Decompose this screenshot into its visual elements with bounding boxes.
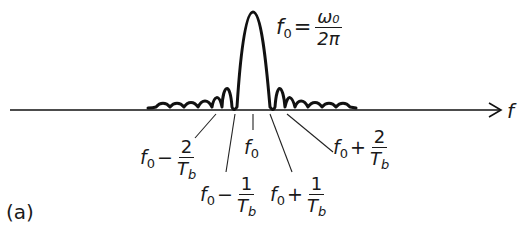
tick-den: T xyxy=(177,158,188,179)
tick-num: 2 xyxy=(372,128,387,148)
figure-caption: (a) xyxy=(6,200,34,224)
tick-sub: 0 xyxy=(251,146,259,161)
tick-sub: 0 xyxy=(207,193,215,208)
tick-op: + xyxy=(287,183,303,205)
tick-label-f0-minus-1: f0−1Tb xyxy=(200,175,256,215)
tick-fraction: 2Tb xyxy=(370,128,389,168)
tick-base: f xyxy=(333,136,340,158)
tick-label-f0-plus-1: f0+1Tb xyxy=(270,175,326,215)
tick-den: T xyxy=(237,195,248,216)
tick-den: T xyxy=(370,148,381,169)
tick-label-f0-plus-2: f0+2Tb xyxy=(333,128,389,168)
tick-label-f0: f0 xyxy=(244,138,259,157)
leader-f0-minus-2 xyxy=(195,114,216,138)
formula-lhs-sub: 0 xyxy=(283,26,291,41)
tick-num: 1 xyxy=(239,175,254,195)
tick-base: f xyxy=(140,146,147,168)
tick-fraction: 1Tb xyxy=(237,175,256,215)
formula-numerator: ω₀ xyxy=(315,8,341,28)
tick-op: − xyxy=(157,146,173,168)
center-frequency-formula: f0=ω₀2π xyxy=(276,8,342,48)
formula-equals: = xyxy=(294,15,312,39)
tick-fraction: 2Tb xyxy=(177,138,196,178)
leader-f0-plus-2 xyxy=(287,114,333,152)
axis-label-f: f xyxy=(507,99,514,123)
leader-f0-minus-1 xyxy=(226,114,235,172)
formula-denominator: 2π xyxy=(317,28,339,48)
tick-op: − xyxy=(217,183,233,205)
tick-base: f xyxy=(244,136,251,158)
tick-op: + xyxy=(350,136,366,158)
formula-fraction: ω₀2π xyxy=(315,8,341,48)
tick-label-f0-minus-2: f0−2Tb xyxy=(140,138,196,178)
spectrum-diagram xyxy=(0,0,524,235)
tick-sub: 0 xyxy=(147,156,155,171)
leader-f0-plus-1 xyxy=(270,114,292,172)
tick-sub: 0 xyxy=(340,146,348,161)
tick-den-sub: b xyxy=(318,204,326,219)
tick-den-sub: b xyxy=(188,167,196,182)
tick-fraction: 1Tb xyxy=(307,175,326,215)
tick-base: f xyxy=(200,183,207,205)
tick-num: 2 xyxy=(179,138,194,158)
tick-den: T xyxy=(307,195,318,216)
tick-den-sub: b xyxy=(248,204,256,219)
tick-den-sub: b xyxy=(381,157,389,172)
tick-num: 1 xyxy=(309,175,324,195)
tick-base: f xyxy=(270,183,277,205)
tick-sub: 0 xyxy=(277,193,285,208)
